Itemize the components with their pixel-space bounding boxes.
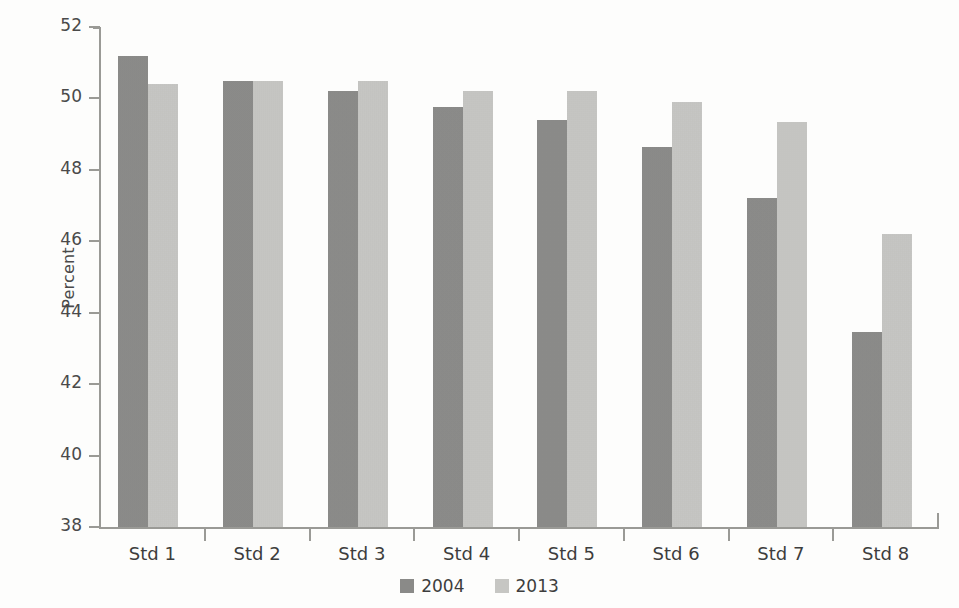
dark-gray-square-icon [400, 579, 414, 593]
x-axis-tick [832, 528, 834, 541]
x-axis-tick-label: Std 2 [197, 543, 317, 564]
legend-item-2013: 2013 [495, 576, 559, 596]
bar-chart: Percent 3840424446485052 Std 1Std 2Std 3… [0, 0, 959, 608]
y-axis-tick [89, 97, 100, 99]
bar-2013-std-5 [567, 91, 597, 527]
legend-label: 2013 [516, 576, 559, 596]
x-axis-tick [309, 528, 311, 541]
bar-2013-std-2 [253, 81, 283, 527]
light-gray-square-icon [495, 579, 509, 593]
y-axis-tick [89, 455, 100, 457]
y-axis-tick [89, 526, 100, 528]
bar-2013-std-3 [358, 81, 388, 527]
y-axis-tick [89, 26, 100, 28]
bar-2013-std-6 [672, 102, 702, 527]
bar-2013-std-8 [882, 234, 912, 527]
y-axis-tick-label: 44 [38, 301, 82, 321]
bar-2004-std-8 [852, 332, 882, 527]
y-axis-tick-label: 52 [38, 15, 82, 35]
bar-2004-std-1 [118, 56, 148, 527]
x-axis-tick-label: Std 3 [302, 543, 422, 564]
bar-2004-std-6 [642, 147, 672, 527]
x-axis-tick-label: Std 1 [92, 543, 212, 564]
x-axis-tick-label: Std 6 [616, 543, 736, 564]
bar-2004-std-7 [747, 198, 777, 527]
x-axis-tick [728, 528, 730, 541]
x-axis-tick-label: Std 5 [511, 543, 631, 564]
y-axis-tick-label: 38 [38, 515, 82, 535]
bar-2004-std-4 [433, 107, 463, 527]
y-axis-tick-label: 48 [38, 158, 82, 178]
y-axis-tick-label: 46 [38, 229, 82, 249]
x-axis-tick [518, 528, 520, 541]
plot-area [100, 27, 938, 527]
bar-2004-std-5 [537, 120, 567, 527]
y-axis-tick-label: 42 [38, 372, 82, 392]
x-axis-tick-label: Std 4 [407, 543, 527, 564]
y-axis-tick [89, 169, 100, 171]
y-axis-tick-label: 50 [38, 86, 82, 106]
y-axis-tick-label: 40 [38, 444, 82, 464]
x-axis-tick-label: Std 7 [721, 543, 841, 564]
bar-2013-std-1 [148, 84, 178, 527]
legend-label: 2004 [421, 576, 464, 596]
legend-item-2004: 2004 [400, 576, 464, 596]
bar-2013-std-4 [463, 91, 493, 527]
chart-legend: 20042013 [0, 576, 959, 596]
x-axis-tick-label: Std 8 [826, 543, 946, 564]
bar-2013-std-7 [777, 122, 807, 527]
x-axis-tick [623, 528, 625, 541]
bar-2004-std-2 [223, 81, 253, 527]
y-axis-tick [89, 240, 100, 242]
y-axis-tick [89, 312, 100, 314]
x-axis-tick [413, 528, 415, 541]
x-axis-tick [204, 528, 206, 541]
y-axis-tick [89, 383, 100, 385]
bar-2004-std-3 [328, 91, 358, 527]
